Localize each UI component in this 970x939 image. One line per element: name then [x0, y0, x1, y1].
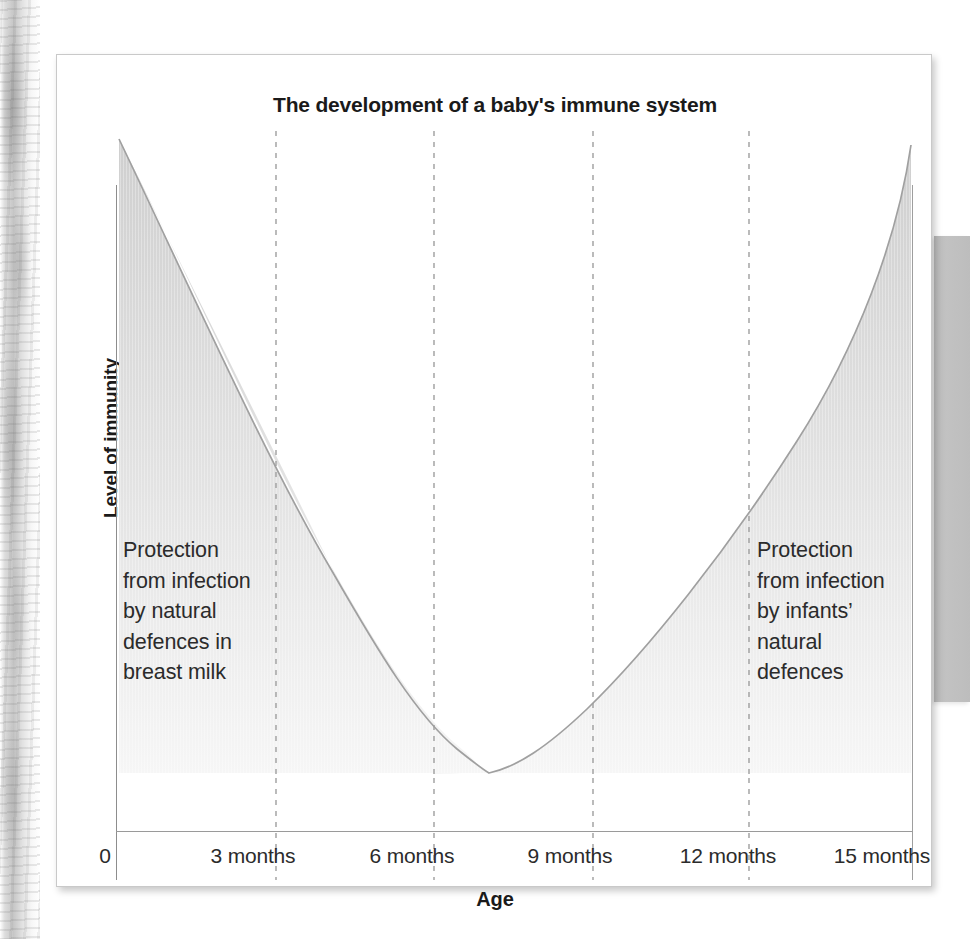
chart-title: The development of a baby's immune syste…	[57, 93, 933, 117]
scan-gutter-smudge	[2, 18, 28, 898]
annotation-right: Protection from infection by infants’ na…	[757, 535, 957, 688]
scanned-page: The development of a baby's immune syste…	[0, 0, 970, 939]
annotation-left: Protection from infection by natural def…	[123, 535, 313, 688]
figure-card: The development of a baby's immune syste…	[56, 54, 932, 887]
tick-label-12-months: 12 months	[658, 844, 798, 868]
tick-label-6-months: 6 months	[342, 844, 482, 868]
tick-label-origin: 0	[87, 844, 111, 868]
tick-label-3-months: 3 months	[183, 844, 323, 868]
tick-label-15-months: 15 months	[812, 844, 952, 868]
tick-label-9-months: 9 months	[500, 844, 640, 868]
x-axis-title: Age	[57, 888, 933, 911]
